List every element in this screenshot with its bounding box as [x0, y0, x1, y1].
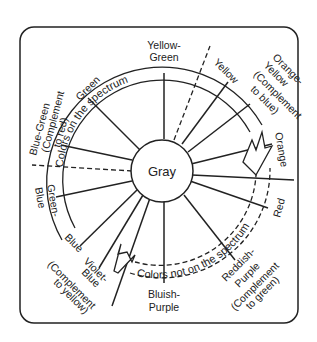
color-wheel-diagram: Gray Colors on the spectrum Colors not o…	[0, 0, 317, 342]
svg-text:Blue: Blue	[33, 186, 48, 209]
svg-text:Bluish-: Bluish-	[148, 288, 181, 300]
svg-text:Yellow-: Yellow-	[147, 39, 181, 51]
arrow-right	[243, 132, 272, 175]
hue-label-orange: Orange	[273, 131, 291, 168]
hue-label-yellow-green: Yellow- Green	[147, 39, 181, 63]
hue-label-reddish-purple: Reddish- Purple (Complement to green)	[219, 245, 281, 313]
hue-label-red: Red	[270, 197, 287, 219]
hue-label-yellow: Yellow	[212, 56, 242, 86]
hue-label-green-blue: Green- Blue	[33, 183, 63, 218]
svg-text:Purple: Purple	[149, 301, 180, 313]
svg-text:Green: Green	[149, 51, 178, 63]
hue-label-blue: Blue	[63, 231, 86, 254]
center-label: Gray	[148, 164, 177, 179]
hue-label-bluish-purple: Bluish- Purple	[148, 288, 181, 313]
